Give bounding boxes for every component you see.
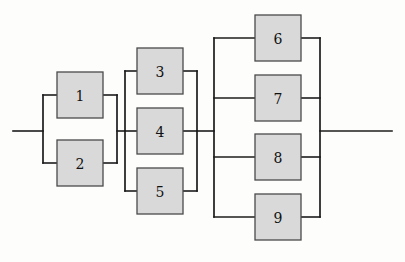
block-5[interactable]: 5 <box>137 168 183 214</box>
block-9[interactable]: 9 <box>255 194 301 240</box>
rbd-svg-root: 1 2 3 4 5 6 7 8 <box>0 0 405 262</box>
block-7[interactable]: 7 <box>255 75 301 121</box>
group-c-wiring <box>214 38 320 217</box>
block-8-rect[interactable] <box>255 134 301 180</box>
block-5-rect[interactable] <box>137 168 183 214</box>
block-6[interactable]: 6 <box>255 15 301 61</box>
block-2-rect[interactable] <box>57 140 103 186</box>
block-9-rect[interactable] <box>255 194 301 240</box>
block-3[interactable]: 3 <box>137 48 183 94</box>
block-4-rect[interactable] <box>137 108 183 154</box>
block-1-rect[interactable] <box>57 72 103 118</box>
rbd-diagram-canvas: 1 2 3 4 5 6 7 8 <box>0 0 405 262</box>
block-8[interactable]: 8 <box>255 134 301 180</box>
block-4[interactable]: 4 <box>137 108 183 154</box>
block-2[interactable]: 2 <box>57 140 103 186</box>
block-1[interactable]: 1 <box>57 72 103 118</box>
block-6-rect[interactable] <box>255 15 301 61</box>
block-3-rect[interactable] <box>137 48 183 94</box>
block-7-rect[interactable] <box>255 75 301 121</box>
